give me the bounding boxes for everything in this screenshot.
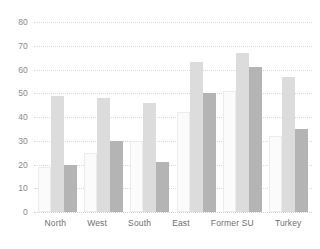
bar-chart: 01020304050607080 NorthWestSouthEastForm… bbox=[0, 0, 320, 249]
bar[interactable] bbox=[84, 153, 97, 212]
plot-area bbox=[34, 22, 312, 212]
y-tick-label-70: 70 bbox=[0, 41, 28, 51]
bar[interactable] bbox=[38, 167, 51, 212]
y-tick-label-20: 20 bbox=[0, 160, 28, 170]
y-tick-label-10: 10 bbox=[0, 183, 28, 193]
bar[interactable] bbox=[269, 136, 282, 212]
bar[interactable] bbox=[190, 62, 203, 212]
bar-group bbox=[223, 22, 262, 212]
bar[interactable] bbox=[97, 98, 110, 212]
bar[interactable] bbox=[110, 141, 123, 212]
y-tick-label-0: 0 bbox=[0, 207, 28, 217]
bar-groups bbox=[34, 22, 312, 212]
x-axis-label: West bbox=[87, 214, 107, 228]
y-tick-label-80: 80 bbox=[0, 17, 28, 27]
y-tick-label-50: 50 bbox=[0, 88, 28, 98]
x-axis-label: North bbox=[45, 214, 67, 228]
bar[interactable] bbox=[156, 162, 169, 212]
bar-group bbox=[84, 22, 123, 212]
bar[interactable] bbox=[295, 129, 308, 212]
x-axis-label: Former SU bbox=[211, 214, 254, 228]
bar-group bbox=[269, 22, 308, 212]
x-axis-label: East bbox=[172, 214, 190, 228]
x-axis-category-labels: NorthWestSouthEastFormer SUTurkey bbox=[34, 214, 312, 236]
bar[interactable] bbox=[203, 93, 216, 212]
bar[interactable] bbox=[223, 91, 236, 212]
y-tick-label-30: 30 bbox=[0, 136, 28, 146]
x-axis-label: South bbox=[128, 214, 151, 228]
y-tick-label-40: 40 bbox=[0, 112, 28, 122]
bar[interactable] bbox=[51, 96, 64, 212]
bar[interactable] bbox=[236, 53, 249, 212]
bar-group bbox=[177, 22, 216, 212]
bar[interactable] bbox=[130, 141, 143, 212]
bar-group bbox=[130, 22, 169, 212]
x-axis-label: Turkey bbox=[275, 214, 302, 228]
gridline-0 bbox=[34, 212, 312, 213]
bar[interactable] bbox=[282, 77, 295, 212]
bar[interactable] bbox=[143, 103, 156, 212]
y-tick-label-60: 60 bbox=[0, 65, 28, 75]
bar[interactable] bbox=[249, 67, 262, 212]
bar-group bbox=[38, 22, 77, 212]
bar[interactable] bbox=[177, 112, 190, 212]
bar[interactable] bbox=[64, 165, 77, 213]
